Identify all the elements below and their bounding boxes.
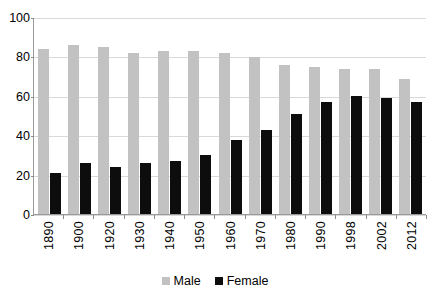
bar-male-2002	[369, 69, 380, 214]
y-axis-tick-label: 40	[2, 130, 30, 143]
chart-legend: MaleFemale	[0, 275, 430, 288]
bar-group	[275, 18, 305, 214]
x-axis-tick	[155, 215, 185, 219]
x-axis-tick	[215, 215, 245, 219]
x-axis-label-cell: 1950	[185, 221, 215, 269]
bar-group	[34, 18, 64, 214]
x-axis-label-cell: 1970	[246, 221, 276, 269]
x-axis-tick-label: 1960	[224, 221, 238, 250]
bar-chart: 020406080100 189019001920193019401950196…	[0, 0, 430, 296]
bar-group	[64, 18, 94, 214]
x-axis-tick-label: 2012	[405, 221, 419, 250]
y-axis-tick	[31, 136, 34, 137]
bar-group	[124, 18, 154, 214]
x-axis-tick-label: 1920	[103, 221, 117, 250]
bar-male-1920	[98, 47, 109, 214]
legend-item-female[interactable]: Female	[215, 275, 269, 288]
x-axis-label-cell: 1890	[34, 221, 64, 269]
y-axis: 020406080100	[0, 18, 30, 215]
bar-group	[245, 18, 275, 214]
y-axis-tick-label: 100	[2, 12, 30, 25]
legend-item-male[interactable]: Male	[162, 275, 201, 288]
x-axis-labels: 1890190019201930194019501960197019801990…	[34, 221, 427, 269]
x-axis-tick	[34, 215, 64, 219]
y-axis-tick-label: 80	[2, 51, 30, 64]
x-axis-label-cell: 2012	[397, 221, 427, 269]
bar-group	[305, 18, 335, 214]
x-axis-label-cell: 1920	[94, 221, 124, 269]
bar-male-1940	[158, 51, 169, 214]
bar-group	[94, 18, 124, 214]
bar-female-1998	[351, 96, 362, 214]
x-axis-tick	[64, 215, 94, 219]
x-axis-label-cell: 1900	[64, 221, 94, 269]
bar-female-1980	[291, 114, 302, 214]
x-axis-tick-label: 1900	[72, 221, 86, 250]
x-axis-tick	[94, 215, 124, 219]
bar-male-1900	[68, 45, 79, 214]
legend-swatch-female-icon	[215, 277, 223, 285]
x-axis-tick	[276, 215, 306, 219]
bar-male-2012	[399, 79, 410, 214]
bar-male-1930	[128, 53, 139, 214]
x-axis-tick	[185, 215, 215, 219]
bar-female-2002	[381, 98, 392, 214]
x-axis-tick-label: 1930	[133, 221, 147, 250]
x-axis-tick-label: 1990	[314, 221, 328, 250]
x-axis-label-cell: 1960	[215, 221, 245, 269]
bar-group	[185, 18, 215, 214]
x-axis-tick-label: 2002	[375, 221, 389, 250]
y-axis-tick-label: 0	[2, 209, 30, 222]
y-axis-tick-label: 20	[2, 169, 30, 182]
x-axis-tick-label: 1890	[42, 221, 56, 250]
x-axis-tick	[367, 215, 397, 219]
bar-female-1970	[261, 130, 272, 214]
bar-female-1940	[170, 161, 181, 214]
bar-male-1960	[219, 53, 230, 214]
bar-female-1900	[80, 163, 91, 214]
plot-area	[33, 18, 426, 215]
x-axis-label-cell: 1990	[306, 221, 336, 269]
x-axis-tick-label: 1950	[193, 221, 207, 250]
legend-label: Female	[227, 275, 269, 288]
x-axis-label-cell: 1940	[155, 221, 185, 269]
bar-female-1960	[231, 140, 242, 214]
legend-swatch-male-icon	[162, 277, 170, 285]
bar-female-1950	[200, 155, 211, 214]
bar-female-1930	[140, 163, 151, 214]
x-axis-tick-label: 1940	[163, 221, 177, 250]
bar-group	[215, 18, 245, 214]
x-axis-tick	[306, 215, 336, 219]
y-axis-tick	[31, 176, 34, 177]
x-axis-ticks	[34, 215, 427, 219]
bar-group	[155, 18, 185, 214]
x-axis-label-cell: 2002	[367, 221, 397, 269]
bar-female-1920	[110, 167, 121, 214]
x-axis-tick-label: 1970	[254, 221, 268, 250]
bar-male-1970	[249, 57, 260, 214]
x-axis-label-cell: 1998	[336, 221, 366, 269]
bar-male-1998	[339, 69, 350, 214]
y-axis-tick	[31, 57, 34, 58]
x-axis-label-cell: 1980	[276, 221, 306, 269]
bar-group	[366, 18, 396, 214]
bar-group	[396, 18, 426, 214]
x-axis-tick	[397, 215, 427, 219]
bar-male-1980	[279, 65, 290, 214]
x-axis-label-cell: 1930	[125, 221, 155, 269]
bar-female-1990	[321, 102, 332, 214]
y-axis-tick	[31, 18, 34, 19]
bar-male-1990	[309, 67, 320, 214]
bar-male-1950	[188, 51, 199, 214]
bar-female-2012	[411, 102, 422, 214]
x-axis-tick	[336, 215, 366, 219]
y-axis-tick	[31, 97, 34, 98]
x-axis-tick	[246, 215, 276, 219]
bar-group	[336, 18, 366, 214]
y-axis-tick-label: 60	[2, 91, 30, 104]
bar-groups	[34, 18, 426, 214]
x-axis-tick-label: 1998	[344, 221, 358, 250]
bar-male-1890	[38, 49, 49, 214]
x-axis-tick	[125, 215, 155, 219]
bar-female-1890	[50, 173, 61, 214]
